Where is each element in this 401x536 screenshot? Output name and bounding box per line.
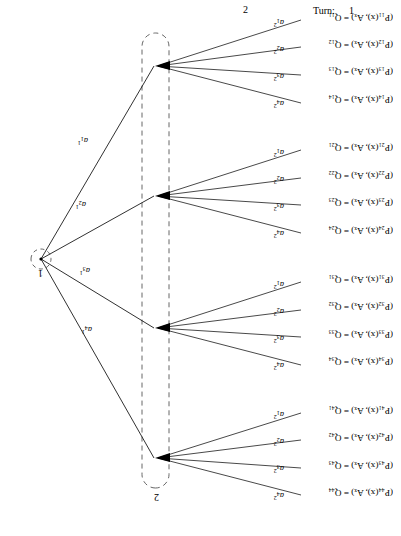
root-edge-a2-text: a21: [76, 200, 86, 209]
decision-node-1: [155, 61, 170, 70]
root-edge-a4-text: a41: [82, 325, 92, 334]
group-2-action-label: a22: [274, 175, 284, 185]
root-edge-a1: [41, 66, 154, 259]
group-3-action-label: a42: [274, 361, 284, 371]
leaf-label: (P₁₂(x), Aₓ) = Q₁₂: [328, 40, 393, 49]
leaf-label: (P₂₂(x), Aₓ) = Q₂₂: [328, 171, 393, 180]
group-1-action-label: a12: [274, 18, 284, 28]
leaf-label: (P₃₁(x), Aₓ) = Q₃₁: [328, 275, 393, 284]
group-4-action-label: a22: [274, 437, 284, 447]
root-node-dot: [39, 257, 42, 260]
decision-node-2: [155, 191, 170, 200]
information-set-label: 2: [154, 492, 159, 502]
group-1-action-label: a22: [274, 45, 284, 55]
group-1-action-label: a32: [274, 72, 284, 82]
group-3-action-label: a32: [274, 334, 284, 344]
group-4-action-label: a42: [274, 491, 284, 501]
group-2-edge-group: [158, 150, 301, 233]
group-1-edge-group: [158, 20, 301, 103]
leaf-label: (P₃₃(x), Aₓ) = Q₃₃: [328, 330, 393, 339]
leaf-label: (P₄₂(x), Aₓ) = Q₄₂: [328, 433, 393, 442]
group-4-action-label: a32: [274, 464, 284, 474]
root-edge-a4: [41, 259, 154, 458]
leaf-label: (P₂₃(x), Aₓ) = Q₂₃: [328, 198, 393, 207]
leaf-label: (P₁₁(x), Aₓ) = Q₁₁: [328, 13, 393, 22]
leaf-label: (P₄₁(x), Aₓ) = Q₄₁: [328, 406, 393, 415]
information-set-oval: [142, 33, 169, 488]
group-3-action-label: a22: [274, 307, 284, 317]
group-2-action-label: a32: [274, 202, 284, 212]
root-edge-a1-text: a11: [78, 136, 88, 145]
root-edge-label-a3: a31: [80, 266, 90, 276]
decision-node-3: [155, 323, 170, 332]
leaf-label: (P₁₃(x), Aₓ) = Q₁₃: [328, 67, 393, 76]
leaf-label: (P₄₃(x), Aₓ) = Q₄₃: [328, 461, 393, 470]
leaf-label: (P₃₄(x), Aₓ) = Q₃₄: [328, 357, 393, 366]
root-edge-a2: [41, 196, 154, 259]
root-node-label: 1: [38, 268, 43, 278]
game-tree-figure: 1 2 a11 a21 a31 a41 (P₁₁(x), Aₓ) = Q₁₁(P…: [0, 0, 401, 536]
leaf-label: (P₂₁(x), Aₓ) = Q₂₁: [328, 143, 393, 152]
root-edge-label-a4: a41: [82, 325, 92, 335]
leaf-label: (P₁₄(x), Aₓ) = Q₁₄: [328, 95, 393, 104]
group-4-action-label: a12: [274, 410, 284, 420]
group-1-action-label: a42: [274, 99, 284, 109]
group-2-action-label: a42: [274, 229, 284, 239]
decision-node-markers: [39, 61, 170, 462]
root-edge-label-a1: a11: [78, 136, 88, 146]
group-3-action-label: a12: [274, 280, 284, 290]
leaf-label: (P₂₄(x), Aₓ) = Q₂₄: [328, 226, 393, 235]
game-tree-edges: [0, 0, 401, 536]
group-2-action-label: a12: [274, 148, 284, 158]
root-edge-a3: [41, 259, 154, 328]
decision-node-4: [155, 453, 170, 462]
leaf-label: (P₄₄(x), Aₓ) = Q₄₄: [328, 488, 393, 497]
group-4-edge-group: [158, 413, 301, 495]
leaf-label: (P₃₂(x), Aₓ) = Q₃₂: [328, 302, 393, 311]
group-3-edge-group: [158, 282, 301, 365]
root-edge-group: [41, 66, 154, 458]
root-edge-a3-text: a31: [80, 266, 90, 275]
root-edge-label-a2: a21: [76, 200, 86, 210]
